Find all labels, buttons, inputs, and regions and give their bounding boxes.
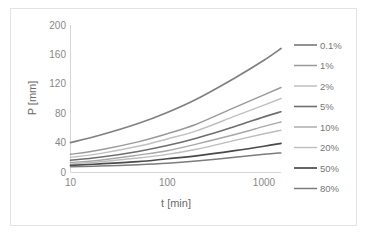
x-tick-label: 1000 — [253, 177, 276, 188]
y-axis-tick-group: 04080120160200 — [49, 20, 66, 178]
legend-label[interactable]: 20% — [320, 142, 340, 153]
legend-label[interactable]: 10% — [320, 122, 340, 133]
legend-label[interactable]: 0.1% — [320, 40, 342, 51]
y-tick-label: 40 — [55, 137, 67, 148]
chart-container: 04080120160200 101001000 P [mm] t [min] … — [0, 0, 369, 236]
chart-legend[interactable]: 0.1%1%2%5%10%20%50%80% — [294, 40, 342, 195]
y-tick-label: 80 — [55, 108, 67, 119]
legend-label[interactable]: 5% — [320, 101, 334, 112]
legend-label[interactable]: 2% — [320, 81, 334, 92]
y-tick-label: 160 — [49, 49, 66, 60]
legend-label[interactable]: 50% — [320, 163, 340, 174]
line-chart[interactable]: 04080120160200 101001000 P [mm] t [min] … — [0, 0, 369, 236]
series-line[interactable] — [71, 49, 282, 143]
legend-label[interactable]: 80% — [320, 183, 340, 194]
x-axis-tick-group: 101001000 — [65, 177, 276, 188]
y-axis-title: P [mm] — [26, 81, 38, 116]
x-tick-label: 10 — [65, 177, 77, 188]
x-axis-title: t [min] — [161, 197, 191, 209]
y-tick-label: 200 — [49, 20, 66, 31]
y-tick-label: 120 — [49, 78, 66, 89]
x-tick-label: 100 — [159, 177, 176, 188]
series-group — [71, 49, 282, 167]
y-tick-label: 0 — [60, 167, 66, 178]
legend-label[interactable]: 1% — [320, 60, 334, 71]
